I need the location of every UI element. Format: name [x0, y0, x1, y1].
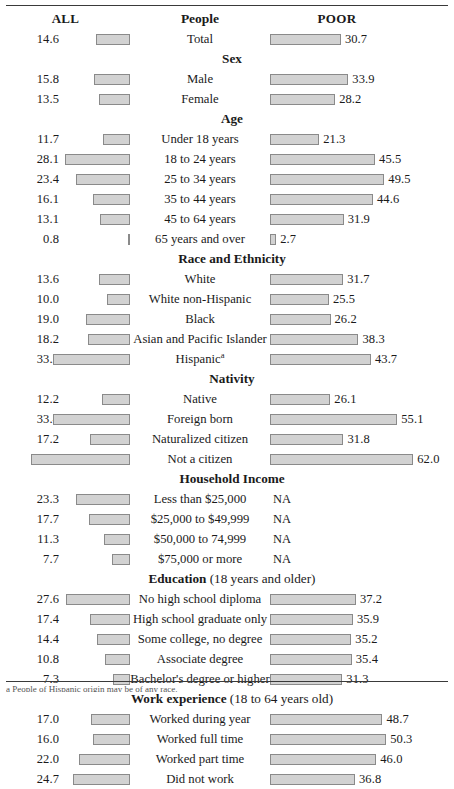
- poor-bar-track: 35.9: [270, 609, 454, 629]
- poor-bar: [270, 414, 397, 425]
- section-heading-main: Household Income: [179, 471, 284, 486]
- row-category-label: Foreign born: [130, 412, 270, 427]
- all-bar: [89, 514, 130, 525]
- poor-value-label: 31.7: [347, 272, 369, 287]
- row-category-label: 35 to 44 years: [130, 192, 270, 207]
- chart-row: 22.0Worked part time46.0: [0, 749, 454, 769]
- all-value-label: 15.8: [0, 72, 62, 87]
- chart-row: 13.145 to 64 years31.9: [0, 209, 454, 229]
- row-category-label: Total: [130, 32, 270, 47]
- chart-row: 18.2Asian and Pacific Islander38.3: [0, 329, 454, 349]
- poor-bar-track: 50.3: [270, 729, 454, 749]
- poor-bar: [270, 34, 341, 45]
- section-heading-main: Work experience: [131, 691, 227, 706]
- all-bar-track: [62, 549, 130, 569]
- all-value-label: 19.0: [0, 312, 62, 327]
- all-bar-track: [62, 169, 130, 189]
- chart-row: 33.2Hispanica43.7: [0, 349, 454, 369]
- chart-row: 10.0White non-Hispanic25.5: [0, 289, 454, 309]
- all-value-label: 14.6: [0, 32, 62, 47]
- all-bar-track: [62, 289, 130, 309]
- all-bar: [79, 754, 130, 765]
- poor-bar: [270, 674, 342, 685]
- poor-bar: [270, 434, 343, 445]
- section-heading-main: Nativity: [209, 371, 254, 386]
- poor-value-label: 35.9: [357, 612, 379, 627]
- row-category-label: Worked part time: [130, 752, 270, 767]
- poor-bar: [270, 774, 355, 785]
- all-value-label: 17.4: [0, 612, 62, 627]
- section-heading-main: Education: [148, 571, 206, 586]
- all-bar: [90, 614, 130, 625]
- poor-value-label: 33.9: [352, 72, 374, 87]
- poor-value-label: 36.8: [359, 772, 381, 787]
- poor-bar-track: 35.2: [270, 629, 454, 649]
- all-value-label: 23.3: [0, 492, 62, 507]
- poor-value-label: 55.1: [401, 412, 423, 427]
- all-bar-track: [62, 629, 130, 649]
- poor-bar-track: 21.3: [270, 129, 454, 149]
- all-bar: [96, 34, 130, 45]
- poor-value-label: 26.2: [335, 312, 357, 327]
- all-bar-track: [62, 149, 130, 169]
- poor-bar: [270, 634, 351, 645]
- footnote-marker: a: [221, 349, 225, 359]
- all-bar-track: [62, 729, 130, 749]
- section-heading-text: Sex: [0, 51, 454, 67]
- all-bar-track: [62, 609, 130, 629]
- section-heading-main: Age: [221, 111, 243, 126]
- poor-bar-track: 48.7: [270, 709, 454, 729]
- chart-row: 7.7$75,000 or moreNA: [0, 549, 454, 569]
- poor-bar: [270, 454, 413, 465]
- all-bar: [104, 534, 130, 545]
- all-value-label: 24.7: [0, 772, 62, 787]
- all-bar-track: [62, 309, 130, 329]
- column-header-row: ALL People POOR: [0, 9, 454, 29]
- poor-bar: [270, 234, 276, 245]
- poor-value-label: 45.5: [379, 152, 401, 167]
- row-category-label: 18 to 24 years: [130, 152, 270, 167]
- all-value-label: 17.0: [0, 712, 62, 727]
- all-value-label: 16.1: [0, 192, 62, 207]
- row-category-label: High school graduate only: [130, 612, 270, 627]
- row-category-label: Less than $25,000: [130, 492, 270, 507]
- poor-bar-track: NA: [270, 489, 454, 509]
- chart-row: 13.6White31.7: [0, 269, 454, 289]
- poor-bar: [270, 274, 343, 285]
- all-bar: [53, 354, 130, 365]
- row-category-label: Male: [130, 72, 270, 87]
- chart-row: 14.6Total30.7: [0, 29, 454, 49]
- poor-bar-track: 31.7: [270, 269, 454, 289]
- poor-bar-track: NA: [270, 509, 454, 529]
- row-category-label: Associate degree: [130, 652, 270, 667]
- all-bar: [90, 434, 130, 445]
- poor-bar: [270, 654, 352, 665]
- poor-value-label: 44.6: [377, 192, 399, 207]
- poor-bar-track: 33.9: [270, 69, 454, 89]
- all-value-label: 11.3: [0, 532, 62, 547]
- poor-bar: [270, 94, 335, 105]
- poor-bar-track: 62.0: [270, 449, 454, 469]
- row-category-label: Some college, no degree: [130, 632, 270, 647]
- poor-bar: [270, 194, 373, 205]
- poor-bar-track: 35.4: [270, 649, 454, 669]
- all-value-label: 14.4: [0, 632, 62, 647]
- section-heading-sub: (18 years and older): [206, 571, 315, 586]
- poor-bar: [270, 334, 358, 345]
- all-bar: [65, 154, 130, 165]
- chart-grid: ALL People POOR 14.6Total30.7Sex15.8Male…: [0, 9, 454, 789]
- poor-value-label: 21.3: [323, 132, 345, 147]
- bottom-rule: [6, 681, 448, 682]
- poor-bar-track: 43.7: [270, 349, 454, 369]
- all-bar: [93, 194, 130, 205]
- poor-bar-track: 25.5: [270, 289, 454, 309]
- all-bar: [103, 134, 130, 145]
- all-value-label: 12.2: [0, 392, 62, 407]
- section-heading-text: Work experience (18 to 64 years old): [0, 691, 454, 707]
- section-heading-main: Race and Ethnicity: [178, 251, 286, 266]
- poor-bar-track: 26.2: [270, 309, 454, 329]
- chart-row: 17.7$25,000 to $49,999NA: [0, 509, 454, 529]
- all-bar-track: [62, 209, 130, 229]
- section-heading: Work experience (18 to 64 years old): [0, 689, 454, 709]
- poor-value-label: 37.2: [360, 592, 382, 607]
